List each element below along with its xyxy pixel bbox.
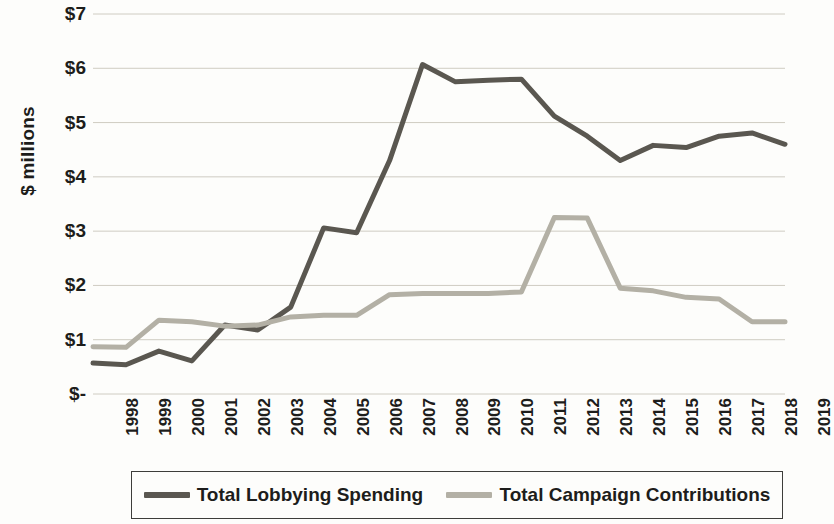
x-axis-tick-label: 2013 (618, 398, 635, 460)
y-axis-tick-labels: $7$6$5$4$3$2$1$- (20, 0, 86, 410)
legend-swatch-line-icon (446, 492, 492, 498)
x-axis-tick-label: 2011 (552, 398, 569, 460)
y-axis-tick-label: $6 (26, 58, 86, 77)
series-line-campaign (93, 218, 785, 348)
plot-svg (93, 14, 785, 394)
x-axis-tick-label: 2010 (519, 398, 536, 460)
chart-legend: Total Lobbying Spending Total Campaign C… (131, 471, 783, 519)
series-lines (93, 64, 785, 364)
legend-swatch-line-icon (144, 492, 190, 498)
x-axis-tick-label: 2003 (289, 398, 306, 460)
x-axis-tick-label: 2009 (486, 398, 503, 460)
y-axis-tick-label: $5 (26, 113, 86, 132)
x-axis-tick-label: 2002 (256, 398, 273, 460)
legend-label-lobbying: Total Lobbying Spending (197, 484, 424, 506)
x-axis-tick-label: 2001 (223, 398, 240, 460)
legend-item-campaign[interactable]: Total Campaign Contributions (446, 484, 770, 506)
y-axis-tick-label: $1 (26, 330, 86, 349)
x-axis-tick-label: 2008 (454, 398, 471, 460)
x-axis-tick-label: 2018 (783, 398, 800, 460)
x-axis-tick-label: 2014 (651, 398, 668, 460)
legend-label-campaign: Total Campaign Contributions (499, 484, 770, 506)
x-axis-tick-label: 2015 (684, 398, 701, 460)
x-axis-tick-labels: 1998199920002001200220032004200520062007… (93, 398, 785, 460)
y-axis-tick-label: $2 (26, 275, 86, 294)
x-axis-tick-label: 2019 (816, 398, 833, 460)
x-axis-tick-label: 2005 (355, 398, 372, 460)
x-axis-tick-label: 2007 (421, 398, 438, 460)
legend-item-lobbying[interactable]: Total Lobbying Spending (144, 484, 424, 506)
x-axis-tick-label: 2004 (322, 398, 339, 460)
x-axis-tick-label: 1999 (157, 398, 174, 460)
x-axis-tick-label: 2017 (750, 398, 767, 460)
x-axis-tick-label: 2012 (585, 398, 602, 460)
x-axis-tick-label: 2016 (717, 398, 734, 460)
y-axis-tick-label: $- (26, 384, 86, 403)
series-line-lobbying (93, 64, 785, 364)
y-axis-tick-label: $3 (26, 221, 86, 240)
plot-area (93, 14, 785, 394)
x-axis-tick-label: 2006 (388, 398, 405, 460)
y-axis-tick-label: $7 (26, 4, 86, 23)
x-axis-tick-label: 2000 (190, 398, 207, 460)
x-axis-tick-label: 1998 (124, 398, 141, 460)
y-axis-tick-label: $4 (26, 167, 86, 186)
